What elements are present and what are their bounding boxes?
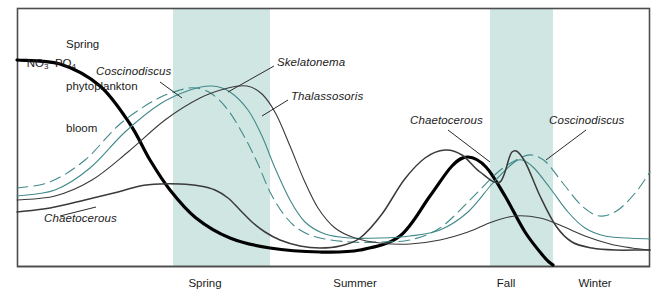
label-chaetocerous-fall: Chaetocerous: [410, 113, 483, 127]
bloom-line-1: Spring: [66, 37, 138, 51]
spring-bloom-annotation: Spring phytoplankton bloom: [66, 9, 138, 163]
season-label-spring: Spring: [188, 276, 221, 290]
label-skelatonema: Skelatonema: [277, 55, 345, 69]
nitrate-subscript: 3: [44, 62, 48, 71]
bloom-line-3: bloom: [66, 121, 138, 135]
label-coscinodiscus-spring: Coscinodiscus: [96, 64, 171, 78]
season-band-spring: [173, 9, 270, 266]
nitrate-text: NO: [27, 57, 44, 69]
label-coscinodiscus-fall: Coscinodiscus: [549, 113, 624, 127]
season-label-summer: Summer: [333, 276, 376, 290]
label-chaetocerous-left: Chaetocerous: [44, 211, 117, 225]
seasonal-succession-figure: NO3 PO4 Spring phytoplankton bloom Cosci…: [0, 0, 666, 306]
season-label-winter: Winter: [578, 276, 611, 290]
season-shaded-bands: [173, 9, 553, 266]
label-thalassosoris: Thalassosoris: [291, 89, 363, 103]
bloom-line-2: phytoplankton: [66, 79, 138, 93]
season-label-fall: Fall: [497, 276, 516, 290]
